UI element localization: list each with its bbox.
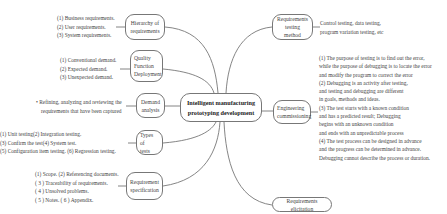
node-label: requirements (130, 27, 159, 35)
node-label: Function (134, 62, 154, 70)
detail-item: (1) Conventional demand. (60, 56, 116, 65)
detail-item: (5) Configuration item testing. (6) Regr… (0, 147, 116, 156)
node-label: Demand (141, 98, 160, 106)
node-label: testing method (276, 23, 309, 39)
detail-item: Debugging cannot describe the process or… (319, 154, 432, 162)
node-label: Requirements (277, 15, 308, 23)
node-requirement-specification[interactable]: Requirement specification (126, 172, 163, 200)
details-requirement-specification: (1) Scope. (2) Referencing documents. ( … (35, 170, 119, 204)
detail-item: ( 4 ) Unsolved problems. (35, 187, 119, 196)
node-label: Quality (134, 54, 151, 62)
detail-item: (1) Unit testing(2) Integration testing. (0, 130, 116, 139)
node-label: Hierarchy of (131, 19, 159, 27)
detail-item: (2) Debugging is an activity after testi… (319, 79, 432, 87)
detail-item: and testing and debugging are different (319, 87, 432, 95)
detail-item: (1) Business requirements. (57, 14, 115, 23)
node-quality-function-deployment[interactable]: Quality Function Deployment (130, 50, 163, 82)
detail-item: Control testing, data testing, (320, 19, 383, 28)
node-label: Requirement (130, 178, 159, 186)
detail-item: in goals, methods and ideas. (319, 95, 432, 103)
node-label: commissioning (277, 112, 311, 120)
detail-item: and ends with an unpredictable process (319, 129, 432, 137)
details-types-of-tests: (1) Unit testing(2) Integration testing.… (0, 130, 116, 156)
detail-item: and modify the program to correct the er… (319, 71, 432, 79)
detail-item: (2) Expected demand. (60, 65, 116, 74)
node-demand-analysis[interactable]: Demand analysis (136, 93, 165, 118)
detail-item: begins with an unknown condition (319, 120, 432, 128)
node-label: specification (130, 186, 159, 194)
node-engineering-commissioning[interactable]: Engineering commissioning (273, 100, 311, 124)
node-label: Types of (140, 131, 159, 147)
details-demand-analysis: • Refining, analyzing and reviewing the … (36, 98, 122, 115)
detail-item: (3) Confirm the test(4) System test. (0, 139, 116, 148)
detail-item: ( 5 ) Notes. ( 6 ) Appendix. (35, 196, 119, 205)
detail-item: • Refining, analyzing and reviewing the (36, 98, 122, 107)
node-hierarchy-of-requirements[interactable]: Hierarchy of requirements (125, 14, 165, 40)
node-requirements-testing-method[interactable]: Requirements testing method (272, 14, 313, 40)
central-topic-node[interactable]: Intelligent manufacturing prototyping de… (180, 93, 262, 122)
central-topic-line-2: prototyping development (188, 108, 254, 118)
detail-item: (1) The purpose of testing is to find ou… (319, 54, 432, 62)
detail-item: and has a predicted result; Debugging (319, 112, 432, 120)
detail-item: (2) User requirements. (57, 23, 115, 32)
details-hierarchy-of-requirements: (1) Business requirements. (2) User requ… (57, 14, 115, 40)
detail-item: (3) System requirements. (57, 31, 115, 40)
node-label: Deployment (134, 70, 162, 78)
node-requirements-elicitation[interactable]: Requirements elicitation (272, 197, 332, 212)
detail-item: (4) The test process can be designed in … (319, 137, 432, 145)
detail-item: (3) Unexpected demand. (60, 73, 116, 82)
node-label: analysis (141, 106, 159, 114)
details-requirements-testing-method: Control testing, data testing, program v… (320, 19, 383, 36)
detail-item: program variation testing, etc (320, 28, 383, 37)
node-label: tests (140, 147, 150, 155)
central-topic-line-1: Intelligent manufacturing (187, 98, 255, 108)
detail-item: while the purpose of debugging is to loc… (319, 62, 432, 70)
details-engineering-commissioning: (1) The purpose of testing is to find ou… (319, 54, 432, 162)
detail-item: and the progress can be determined in ad… (319, 145, 432, 153)
node-label: Requirements elicitation (276, 197, 328, 213)
detail-item: requirements that have been captured (36, 107, 122, 116)
detail-item: (1) Scope. (2) Referencing documents. (35, 170, 119, 179)
detail-item: ( 3 ) Traceability of requirements. (35, 179, 119, 188)
detail-item: (3) The test starts with a known conditi… (319, 104, 432, 112)
node-label: Engineering (277, 104, 304, 112)
node-types-of-tests[interactable]: Types of tests (136, 130, 163, 155)
details-quality-function-deployment: (1) Conventional demand. (2) Expected de… (60, 56, 116, 82)
